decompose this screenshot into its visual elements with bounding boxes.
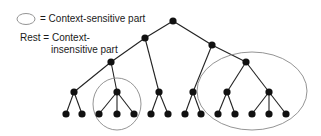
tree-node	[265, 110, 272, 117]
tree-node	[95, 110, 102, 117]
tree-node	[62, 110, 69, 117]
tree-node	[155, 88, 162, 95]
tree-node	[248, 110, 255, 117]
context-sensitivity-diagram: = Context-sensitive part Rest = Context-…	[0, 0, 321, 136]
tree-node	[242, 58, 249, 65]
tree-edge	[246, 62, 269, 92]
tree-edge	[173, 21, 212, 45]
tree-node	[164, 110, 171, 117]
tree-node	[265, 88, 272, 95]
tree-node	[181, 110, 188, 117]
tree-node	[189, 88, 196, 95]
tree-node	[231, 110, 238, 117]
tree-edge	[193, 45, 212, 92]
tree-node	[113, 110, 120, 117]
tree-node	[78, 110, 85, 117]
legend: = Context-sensitive part Rest = Context-…	[17, 13, 146, 55]
tree-edge	[145, 21, 173, 38]
legend-rest-label-line1: Rest = Context-	[20, 32, 90, 43]
tree-nodes	[62, 17, 289, 117]
legend-ellipse-icon	[17, 14, 35, 25]
tree-edge	[269, 92, 286, 114]
tree-node	[169, 17, 176, 24]
tree-node	[208, 41, 215, 48]
tree-edge	[145, 38, 159, 92]
legend-ellipse-label: = Context-sensitive part	[40, 13, 146, 24]
tree-edge	[111, 62, 117, 92]
context-sensitive-region-large	[197, 52, 307, 130]
tree-node	[70, 88, 77, 95]
tree-edge	[227, 62, 246, 92]
tree-node	[130, 110, 137, 117]
legend-rest-label-line2: insensitive part	[51, 44, 118, 55]
tree-edge	[74, 62, 111, 92]
context-sensitive-regions	[93, 52, 307, 130]
tree-edge	[252, 92, 269, 114]
tree-node	[113, 88, 120, 95]
tree-edge	[212, 45, 246, 62]
tree-node	[107, 58, 114, 65]
tree-edge	[99, 92, 117, 114]
tree-node	[147, 110, 154, 117]
tree-node	[141, 34, 148, 41]
tree-edges	[66, 21, 286, 114]
tree-edge	[117, 92, 134, 114]
tree-node	[197, 110, 204, 117]
tree-node	[282, 110, 289, 117]
tree-node	[223, 88, 230, 95]
tree-node	[214, 110, 221, 117]
